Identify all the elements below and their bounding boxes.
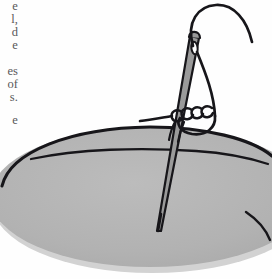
thread-upper-arc: [191, 5, 252, 46]
thread-left-tail: [140, 116, 172, 121]
body-text-line: s.: [10, 91, 18, 104]
body-text-line: e: [12, 114, 18, 127]
thread-coil-4: [202, 106, 213, 117]
body-text-line: e: [12, 39, 18, 52]
body-text-column: e l, d e es of s. e: [0, 0, 26, 279]
scanned-page: e l, d e es of s. e: [0, 0, 272, 279]
needle-and-fabric-illustration: [0, 0, 272, 279]
